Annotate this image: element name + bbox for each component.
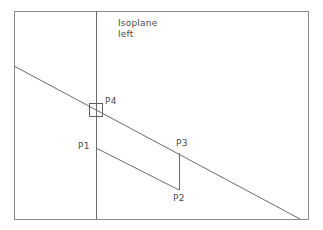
- diagram-border-frame: [15, 12, 309, 220]
- isoplane-annotation-line2: left: [118, 29, 133, 39]
- point-label-p4: P4: [105, 96, 117, 107]
- point-label-p2: P2: [173, 193, 185, 204]
- diagram-canvas: [0, 0, 323, 230]
- point-label-p1: P1: [78, 141, 90, 152]
- lower-parallel-edge-line: [96, 148, 179, 190]
- isoplane-diagram: Isoplane left P1 P2 P3 P4: [0, 0, 323, 230]
- point-label-p3: P3: [176, 138, 188, 149]
- main-diagonal-line: [14, 66, 300, 219]
- isoplane-annotation-line1: Isoplane: [118, 18, 157, 28]
- isoplane-annotation: Isoplane left: [118, 18, 157, 39]
